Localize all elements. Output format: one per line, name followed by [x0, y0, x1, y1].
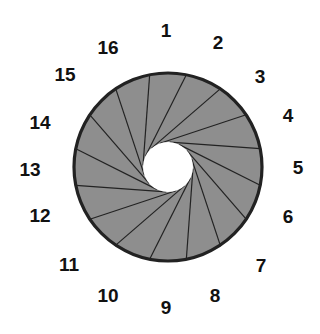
position-label-12: 12 — [29, 205, 50, 226]
position-label-8: 8 — [210, 285, 221, 306]
position-label-10: 10 — [97, 285, 118, 306]
scalloped-ring-diagram: 12345678910111213141516 — [0, 0, 320, 334]
position-label-6: 6 — [283, 206, 294, 227]
position-label-14: 14 — [29, 112, 51, 133]
position-label-4: 4 — [283, 105, 294, 126]
position-label-3: 3 — [255, 66, 266, 87]
position-label-16: 16 — [97, 37, 118, 58]
position-label-2: 2 — [213, 32, 224, 53]
position-label-13: 13 — [19, 159, 40, 180]
position-label-5: 5 — [293, 157, 304, 178]
position-label-11: 11 — [59, 254, 80, 275]
position-label-9: 9 — [161, 297, 172, 318]
center-hole — [143, 142, 193, 192]
position-label-1: 1 — [161, 20, 172, 41]
position-label-7: 7 — [256, 255, 267, 276]
position-label-15: 15 — [54, 64, 76, 85]
